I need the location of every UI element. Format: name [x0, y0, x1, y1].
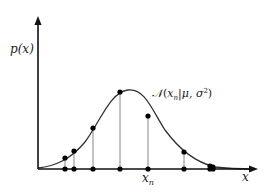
xn-label: xn [142, 171, 154, 187]
y-axis-label: p(x) [10, 42, 34, 56]
curve-label: 𝒩(xn|μ, σ2) [152, 87, 212, 102]
axis-point [62, 166, 67, 171]
axis-point [117, 166, 122, 171]
gaussian-diagram: p(x) x xn 𝒩(xn|μ, σ2) [0, 0, 273, 192]
sample-stems [65, 92, 213, 169]
x-axis-label: x [242, 170, 249, 184]
x-axis-arrow-icon [249, 166, 258, 173]
y-axis-arrow-icon [35, 16, 42, 25]
curve-point [90, 125, 95, 130]
curve-point [181, 149, 186, 154]
curve-point [71, 148, 76, 153]
axis-point [181, 166, 186, 171]
curve-point [62, 155, 67, 160]
sample-dots [62, 89, 215, 171]
axis-point [90, 166, 95, 171]
axis-point [210, 166, 215, 171]
curve-point [117, 89, 122, 94]
axis-point [71, 166, 76, 171]
curve-point [145, 113, 150, 118]
gaussian-curve [38, 90, 255, 169]
